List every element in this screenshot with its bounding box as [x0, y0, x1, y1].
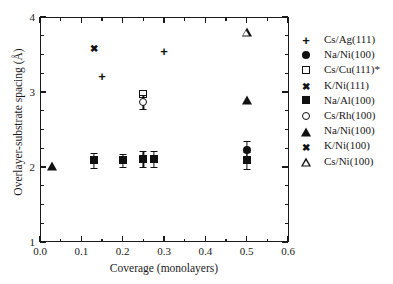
y-tick-minor	[40, 148, 44, 149]
y-tick-major-right	[282, 166, 288, 167]
y-tick-minor	[40, 129, 44, 130]
data-point	[242, 28, 252, 37]
x-tick-label: 0.3	[144, 246, 184, 257]
y-tick-minor-right	[285, 35, 289, 36]
y-tick-minor	[40, 223, 44, 224]
legend-item: Na/Ni(100)	[298, 47, 393, 62]
y-tick-major	[40, 241, 46, 242]
y-tick-minor-right	[285, 223, 289, 224]
y-tick-minor	[40, 185, 44, 186]
x-tick-label: 0.6	[268, 246, 308, 257]
legend-marker-glyph: +	[302, 33, 310, 48]
legend-marker-glyph	[302, 112, 310, 120]
legend-marker-square-filled-icon	[302, 96, 310, 104]
x-tick-minor	[60, 239, 61, 243]
legend-item: Cs/Cu(111)*	[298, 62, 393, 77]
legend-label: Cs/Ag(111)	[324, 33, 375, 45]
x-tick-minor	[184, 239, 185, 243]
legend-marker-plus-icon: +	[302, 32, 310, 48]
x-tick-major	[205, 236, 206, 242]
scatter-chart-figure: 12340.00.10.20.30.40.50.6 ++✖ Overlayer-…	[0, 0, 393, 284]
legend-label: Cs/Cu(111)*	[324, 63, 380, 75]
x-tick-label: 0.5	[227, 246, 267, 257]
legend-marker-glyph	[301, 158, 311, 167]
data-point	[47, 162, 57, 171]
x-tick-label: 0.0	[20, 246, 60, 257]
axis-right-spine	[288, 17, 289, 242]
x-tick-major-top	[205, 17, 206, 23]
x-tick-major	[287, 236, 288, 242]
legend-marker-xstar-icon: ✖	[302, 138, 310, 154]
y-tick-major	[40, 166, 46, 167]
legend-marker-circle-filled-icon	[302, 51, 310, 59]
x-tick-minor	[267, 239, 268, 243]
data-point	[139, 155, 147, 163]
legend-label: Na/Ni(100)	[324, 124, 375, 136]
legend-marker-glyph: ✖	[302, 142, 310, 153]
error-bar-cap	[243, 169, 250, 170]
error-bar-cap	[140, 109, 147, 110]
y-tick-minor-right	[285, 73, 289, 74]
legend-item: ✖K/Ni(111)	[298, 78, 393, 93]
legend-item: Cs/Rh(100)	[298, 108, 393, 123]
error-bar-cap	[243, 141, 250, 142]
legend-marker-glyph	[302, 66, 310, 74]
x-tick-minor-top	[225, 17, 226, 21]
x-tick-major	[81, 236, 82, 242]
error-bar-cap	[150, 167, 157, 168]
legend-item: ✖K/Ni(100)	[298, 138, 393, 153]
y-tick-minor	[40, 54, 44, 55]
x-tick-major-top	[39, 17, 40, 23]
x-tick-major-top	[81, 17, 82, 23]
y-tick-minor-right	[285, 204, 289, 205]
legend-label: K/Ni(100)	[324, 139, 370, 151]
x-tick-minor	[225, 239, 226, 243]
x-tick-label: 0.4	[185, 246, 225, 257]
x-tick-major	[163, 236, 164, 242]
data-point: +	[160, 44, 168, 57]
x-axis-title: Coverage (monolayers)	[40, 262, 288, 274]
y-tick-minor	[40, 73, 44, 74]
x-tick-major-top	[246, 17, 247, 23]
data-point	[139, 98, 147, 106]
legend-item: Na/Al(100)	[298, 93, 393, 108]
data-point: +	[98, 69, 106, 82]
y-tick-major	[40, 91, 46, 92]
y-tick-major-right	[282, 91, 288, 92]
x-tick-minor-top	[60, 17, 61, 21]
x-tick-minor-top	[143, 17, 144, 21]
data-point: ✖	[90, 44, 98, 54]
y-tick-minor-right	[285, 110, 289, 111]
data-point	[119, 156, 127, 164]
legend-label: Cs/Rh(100)	[324, 109, 375, 121]
x-tick-minor	[101, 239, 102, 243]
data-point	[242, 95, 252, 104]
y-tick-minor-right	[285, 185, 289, 186]
chart-legend: +Cs/Ag(111)Na/Ni(100)Cs/Cu(111)*✖K/Ni(11…	[298, 32, 393, 169]
y-tick-minor	[40, 110, 44, 111]
legend-marker-asterisk-icon: ✖	[302, 77, 310, 93]
x-tick-major-top	[287, 17, 288, 23]
y-tick-major	[40, 16, 46, 17]
legend-marker-circle-open-icon	[302, 112, 310, 120]
legend-label: Na/Al(100)	[324, 94, 375, 106]
y-tick-minor-right	[285, 129, 289, 130]
legend-label: Cs/Ni(100)	[324, 155, 374, 167]
y-tick-minor-right	[285, 54, 289, 55]
legend-label: K/Ni(111)	[324, 79, 369, 91]
error-bar-cap	[140, 151, 147, 152]
error-bar-cap	[90, 153, 97, 154]
x-tick-major-top	[163, 17, 164, 23]
y-tick-minor	[40, 35, 44, 36]
x-tick-major-top	[122, 17, 123, 23]
data-point	[243, 156, 251, 164]
legend-marker-glyph	[302, 51, 310, 59]
legend-marker-glyph	[302, 96, 310, 104]
legend-item: Cs/Ni(100)	[298, 154, 393, 169]
x-tick-label: 0.2	[103, 246, 143, 257]
legend-marker-square-open-icon	[302, 66, 310, 74]
data-point	[150, 155, 158, 163]
y-tick-minor	[40, 204, 44, 205]
legend-marker-glyph	[301, 127, 311, 136]
x-tick-major	[39, 236, 40, 242]
